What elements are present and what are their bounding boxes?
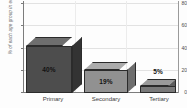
- x-axis-label-primary: Primary: [26, 96, 80, 103]
- bar-secondary: 19%: [84, 62, 136, 93]
- bar-primary-side-face: [72, 37, 82, 93]
- y-tick-label-60: 60: [166, 23, 187, 28]
- y-tick-mark-0: [21, 92, 24, 93]
- bar-primary-value-label: 40%: [42, 66, 55, 73]
- bar-secondary-side-face: [127, 62, 136, 93]
- bar-primary-front-face: 40%: [26, 46, 72, 93]
- y-tick-mark-80: [21, 3, 24, 4]
- bar-secondary-top-face: [84, 62, 128, 70]
- bar-primary-top-face: [26, 37, 72, 46]
- bar-secondary-value-label: 19%: [99, 78, 112, 85]
- bar-primary: 40%: [26, 37, 82, 93]
- y-tick-label-40: 40: [166, 46, 187, 51]
- bar-tertiary-front-face: [140, 86, 176, 93]
- bar-tertiary: 5%: [140, 79, 184, 93]
- bar-tertiary-value-label: 5%: [138, 68, 178, 75]
- x-axis-label-secondary: Secondary: [78, 96, 134, 103]
- y-tick-mark-40: [21, 48, 24, 49]
- y-tick-mark-20: [21, 70, 24, 71]
- bar-secondary-front-face: 19%: [84, 70, 128, 93]
- y-tick-label-80: 80: [166, 1, 187, 6]
- bar-chart: % of each age group in education 80 60 4…: [0, 0, 187, 108]
- x-axis-label-tertiary: Tertiary: [133, 96, 185, 103]
- y-axis-title: % of each age group in education: [8, 0, 13, 65]
- y-tick-mark-60: [21, 25, 24, 26]
